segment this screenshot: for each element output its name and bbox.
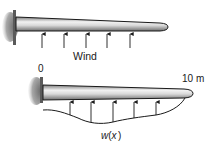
fixed-support-bottom <box>28 77 44 105</box>
bottom-panel: 0 10 m w(x) <box>28 63 204 141</box>
load-paren-close: ) <box>118 130 121 141</box>
wind-arrows <box>42 34 130 48</box>
wind-load-diagram: Wind 0 10 m w(x) <box>0 0 215 144</box>
mast-beam-top <box>16 17 168 31</box>
mast-beam-bottom <box>43 85 193 100</box>
wind-label: Wind <box>73 50 97 62</box>
length-label: 10 m <box>182 73 204 84</box>
load-distribution-curve <box>43 98 185 123</box>
load-function-label: w(x) <box>101 130 121 141</box>
top-panel: Wind <box>2 10 168 62</box>
origin-label: 0 <box>38 63 44 74</box>
load-arrows <box>70 102 156 122</box>
load-var: x <box>111 130 118 141</box>
